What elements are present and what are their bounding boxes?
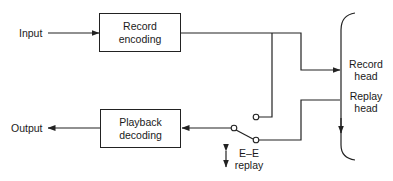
replay-path-line <box>259 100 340 140</box>
ee-branch-line <box>259 33 272 117</box>
replay-head-line2: head <box>346 102 386 114</box>
record-encoding-box: Record encoding <box>99 13 181 52</box>
tape-path <box>341 13 355 160</box>
record-encoding-line1: Record <box>123 20 157 33</box>
input-label: Input <box>19 27 42 39</box>
switch-contact-ee <box>253 114 259 120</box>
diagram-canvas <box>0 0 393 181</box>
switch-pivot <box>231 125 237 131</box>
record-head-line1: Record <box>346 58 386 70</box>
switch-contact-replay <box>253 137 259 143</box>
ee-label-line1: E–E <box>232 147 266 159</box>
playback-decoding-line1: Playback <box>119 116 162 129</box>
output-label: Output <box>11 122 43 134</box>
record-head-line2: head <box>346 70 386 82</box>
ee-label-line2: replay <box>232 159 266 171</box>
replay-head-line1: Replay <box>346 90 386 102</box>
switch-blade <box>236 130 253 139</box>
record-encoding-line2: encoding <box>119 33 162 46</box>
record-head-label: Record head <box>346 58 386 82</box>
playback-decoding-line2: decoding <box>119 129 162 142</box>
replay-head-label: Replay head <box>346 90 386 114</box>
playback-decoding-box: Playback decoding <box>100 109 181 148</box>
ee-replay-label: E–E replay <box>232 147 266 171</box>
record-path-line <box>181 33 340 70</box>
